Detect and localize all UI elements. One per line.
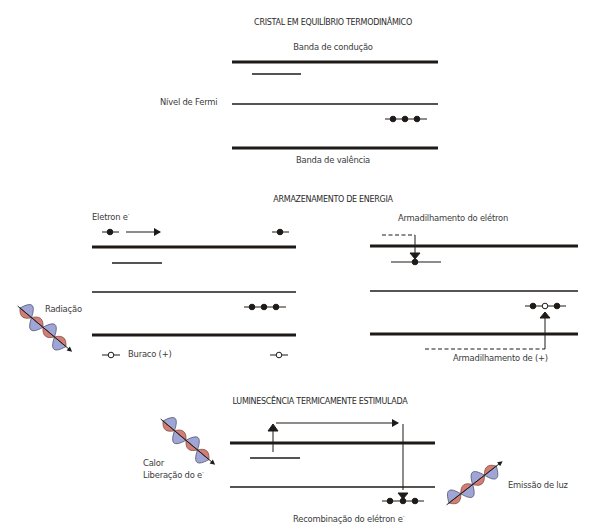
title-equilibrium: CRISTAL EM EQUILÍBRIO TERMODINÂMICO [254,18,412,27]
electron-charge: - [128,211,130,217]
release-charge: - [202,469,204,475]
electron-label: Eletron e- [92,211,129,222]
panel-storage-left [92,229,296,358]
tl-diagram: CRISTAL EM EQUILÍBRIO TERMODINÂMICO Band… [0,0,593,530]
electron-label-text: Eletron e [92,212,128,222]
light-emission-wave-icon [441,453,509,512]
fermi-level-label: Nível de Fermi [160,97,217,107]
radiation-label: Radiação [45,304,82,314]
panel-luminescence [230,423,435,504]
valence-band-label: Banda de valência [296,155,370,165]
electron-release-label: Liberação do e- [143,469,204,480]
electron-trapping-label: Armadilhamento do elétron [398,213,508,223]
diagram-graphics [0,0,593,530]
electron-release-text: Liberação do e [143,470,202,480]
panel-equilibrium [232,62,438,148]
heat-wave-icon [154,412,221,473]
recombination-label: Recombinação do elétron e- [293,513,404,524]
title-storage: ARMAZENAMENTO DE ENERGIA [273,195,392,204]
conduction-band-label: Banda de condução [293,42,373,52]
recombination-charge: - [403,513,405,519]
title-luminescence: LUMINESCÊNCIA TERMICAMENTE ESTIMULADA [233,397,408,406]
panel-storage-right [370,235,578,349]
light-emission-label: Emissão de luz [508,480,568,490]
heat-label: Calor [143,458,164,468]
hole-label: Buraco (+) [128,349,172,359]
recombination-text: Recombinação do elétron e [293,514,403,524]
hole-trapping-label: Armadilhamento de (+) [453,353,548,363]
